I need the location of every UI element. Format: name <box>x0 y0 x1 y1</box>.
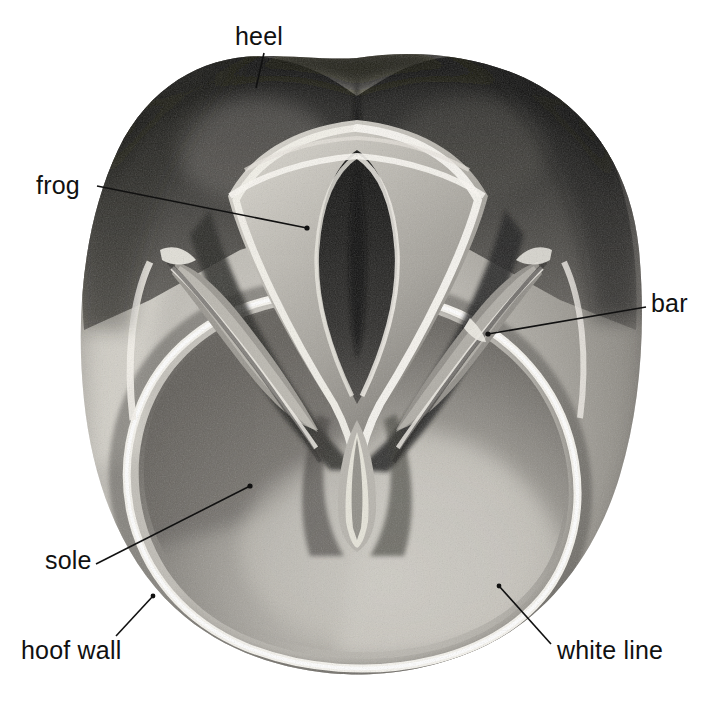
label-bar: bar <box>651 291 688 316</box>
label-heel: heel <box>235 24 283 49</box>
hoof-anatomy-figure: heel frog bar sole hoof wall white line <box>0 0 717 708</box>
hoof-illustration <box>0 0 717 708</box>
label-frog: frog <box>36 173 80 198</box>
label-white-line: white line <box>557 638 663 663</box>
label-sole: sole <box>45 548 92 573</box>
label-hoof-wall: hoof wall <box>21 638 121 663</box>
leader-hoof-wall <box>116 594 155 636</box>
